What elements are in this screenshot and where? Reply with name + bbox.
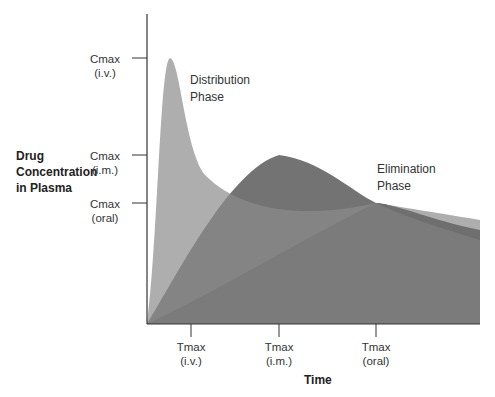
tmax-im-line2: (i.m.) bbox=[254, 354, 304, 368]
cmax-oral-line2: (oral) bbox=[80, 211, 130, 225]
cmax-im-line2: (i.m.) bbox=[80, 163, 130, 177]
elimination-phase-annotation: Elimination Phase bbox=[377, 161, 436, 195]
distribution-line2: Phase bbox=[190, 89, 250, 106]
pharmacokinetic-chart bbox=[0, 0, 495, 397]
cmax-im-line1: Cmax bbox=[80, 149, 130, 163]
tmax-oral-label: Tmax (oral) bbox=[351, 340, 401, 368]
tmax-im-label: Tmax (i.m.) bbox=[254, 340, 304, 368]
cmax-oral-label: Cmax (oral) bbox=[80, 197, 130, 225]
cmax-iv-line2: (i.v.) bbox=[80, 66, 130, 80]
distribution-line1: Distribution bbox=[190, 72, 250, 89]
distribution-phase-annotation: Distribution Phase bbox=[190, 72, 250, 106]
tmax-oral-line1: Tmax bbox=[351, 340, 401, 354]
tmax-iv-line1: Tmax bbox=[166, 340, 216, 354]
x-axis-title: Time bbox=[304, 373, 332, 387]
tmax-oral-line2: (oral) bbox=[351, 354, 401, 368]
elimination-line2: Phase bbox=[377, 178, 436, 195]
elimination-line1: Elimination bbox=[377, 161, 436, 178]
tmax-iv-line2: (i.v.) bbox=[166, 354, 216, 368]
cmax-iv-label: Cmax (i.v.) bbox=[80, 52, 130, 80]
tmax-im-line1: Tmax bbox=[254, 340, 304, 354]
cmax-im-label: Cmax (i.m.) bbox=[80, 149, 130, 177]
cmax-iv-line1: Cmax bbox=[80, 52, 130, 66]
tmax-iv-label: Tmax (i.v.) bbox=[166, 340, 216, 368]
cmax-oral-line1: Cmax bbox=[80, 197, 130, 211]
